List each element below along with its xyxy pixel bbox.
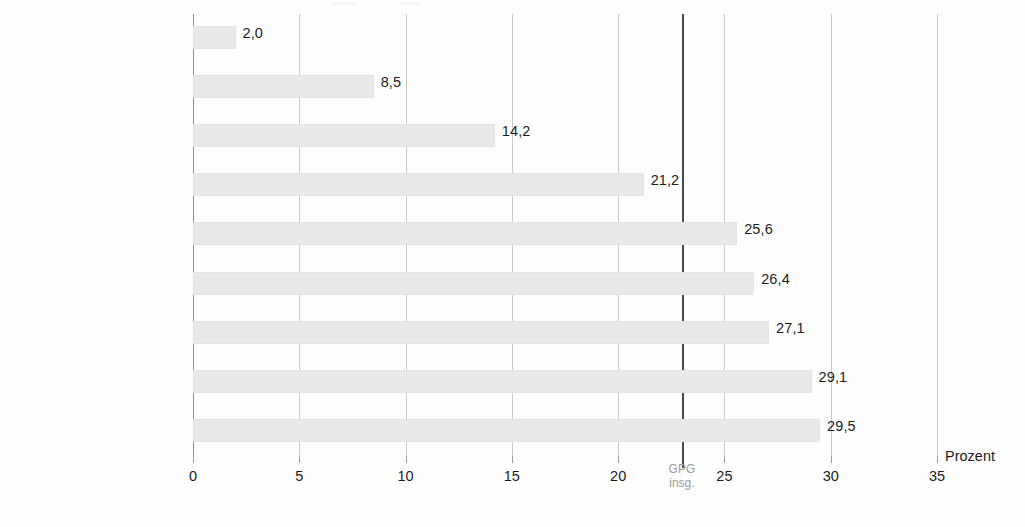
bar-value-label: 26,4 — [761, 271, 790, 287]
bar-value-label: 8,5 — [381, 74, 401, 90]
bar-value-label: 2,0 — [243, 25, 263, 41]
x-tick-label-5: 5 — [295, 468, 303, 484]
bar[interactable] — [193, 222, 737, 245]
bar[interactable] — [193, 321, 769, 344]
x-tick-0 — [193, 456, 194, 463]
bar-row[interactable]: 29,560 Jahre und älter — [193, 407, 937, 454]
reference-line-label-line2: insg. — [669, 476, 696, 490]
bar-value-label: 14,2 — [502, 123, 531, 139]
x-tick-10 — [406, 456, 407, 463]
x-tick-5 — [299, 456, 300, 463]
bar-row[interactable]: 27,150 bis 54 Jahre — [193, 309, 937, 356]
bar-chart: 2,024 Jahre und jünger8,525 bis 29 Jahre… — [0, 0, 1025, 527]
x-tick-label-25: 25 — [716, 468, 732, 484]
bar-value-label: 29,1 — [819, 369, 848, 385]
bar-row[interactable]: 2,024 Jahre und jünger — [193, 14, 937, 61]
x-tick-label-35: 35 — [929, 468, 945, 484]
x-tick-25 — [724, 456, 725, 463]
scan-artifact — [400, 2, 422, 5]
x-axis-title: Prozent — [945, 448, 995, 464]
x-tick-label-20: 20 — [610, 468, 626, 484]
x-tick-35 — [937, 456, 938, 463]
reference-line-label: GPGinsg. — [669, 462, 696, 490]
plot-area: 2,024 Jahre und jünger8,525 bis 29 Jahre… — [193, 14, 937, 456]
bar-row[interactable]: 26,445 bis 49 Jahre — [193, 260, 937, 307]
bar-value-label: 21,2 — [651, 172, 680, 188]
bar[interactable] — [193, 370, 812, 393]
bar-value-label: 25,6 — [744, 221, 773, 237]
x-tick-label-30: 30 — [823, 468, 839, 484]
bar[interactable] — [193, 173, 644, 196]
gridline-35 — [937, 14, 938, 456]
bar[interactable] — [193, 75, 374, 98]
x-tick-label-10: 10 — [397, 468, 413, 484]
x-tick-15 — [512, 456, 513, 463]
bar-row[interactable]: 14,230 bis 34 Jahre — [193, 112, 937, 159]
bar-row[interactable]: 21,235 bis 39 Jahre — [193, 161, 937, 208]
bar-row[interactable]: 8,525 bis 29 Jahre — [193, 63, 937, 110]
x-tick-label-0: 0 — [189, 468, 197, 484]
scan-artifact — [330, 2, 356, 5]
bar-row[interactable]: 25,640 bis 44 Jahre — [193, 210, 937, 257]
bar-value-label: 29,5 — [827, 418, 856, 434]
bar[interactable] — [193, 272, 754, 295]
bar-row[interactable]: 29,155 bis 59 Jahre — [193, 358, 937, 405]
bar[interactable] — [193, 26, 236, 49]
x-tick-label-15: 15 — [504, 468, 520, 484]
bar[interactable] — [193, 419, 820, 442]
reference-line-label-line1: GPG — [669, 462, 696, 476]
bar-value-label: 27,1 — [776, 320, 805, 336]
x-tick-20 — [618, 456, 619, 463]
x-tick-30 — [831, 456, 832, 463]
bar[interactable] — [193, 124, 495, 147]
